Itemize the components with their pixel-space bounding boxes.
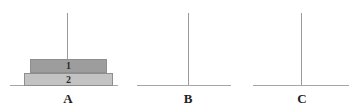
group-b-label: B	[181, 92, 195, 105]
group-c-stem	[301, 13, 302, 85]
group-c-label: C	[295, 92, 309, 105]
group-a-bar-1-label: 1	[66, 61, 71, 71]
group-a-bar-1[interactable]: 1	[30, 59, 107, 73]
group-a-bar-2-label: 2	[66, 75, 71, 85]
group-b-stem	[188, 13, 189, 85]
group-c-baseline	[253, 85, 349, 86]
group-a-bar-2[interactable]: 2	[24, 73, 113, 86]
group-b-baseline	[137, 85, 231, 86]
diagram-canvas: 1 2 A B C	[0, 0, 364, 112]
group-a-label: A	[61, 92, 75, 105]
